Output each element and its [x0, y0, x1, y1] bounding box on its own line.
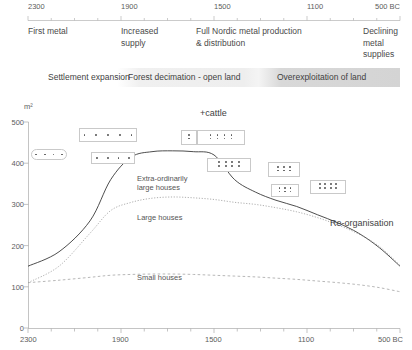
- house-dot-icon: [225, 161, 227, 163]
- house-dot-icon: [96, 157, 98, 159]
- house-dot-icon: [95, 134, 97, 136]
- house-dot-icon: [231, 134, 233, 136]
- house-dot-row: [319, 183, 337, 185]
- house-dot-icon: [128, 157, 130, 159]
- house-dot-icon: [225, 165, 227, 167]
- glyph-box-8: [271, 184, 299, 197]
- house-dot-icon: [279, 187, 281, 189]
- phase-label-overexploitation: Overexploitation of land: [277, 72, 366, 82]
- house-dot-icon: [238, 165, 240, 167]
- bronze-age-house-size-figure: 2300 1900 1500 1100 500 BC Fi: [0, 0, 412, 350]
- house-dot-icon: [107, 134, 109, 136]
- house-dot-icon: [84, 134, 86, 136]
- house-dot-icon: [335, 183, 337, 185]
- glyph-box-5: [197, 130, 245, 145]
- house-dot-icon: [279, 191, 281, 193]
- house-dot-icon: [283, 166, 285, 168]
- house-size-chart: m² 500 400 300 200 100 0 2300 1900 1500 …: [0, 100, 412, 350]
- house-dot-icon: [324, 183, 326, 185]
- house-dot-row: [279, 187, 292, 189]
- house-dot-icon: [224, 134, 226, 136]
- house-dot-icon: [330, 187, 332, 189]
- house-dot-icon: [218, 161, 220, 163]
- house-glyph-layer: [0, 100, 412, 350]
- house-dot-icon: [118, 157, 120, 159]
- house-dot-row: [277, 170, 291, 172]
- house-dot-icon: [324, 187, 326, 189]
- phase-label-settlement-expansion: Settlement expansion: [48, 72, 130, 82]
- house-dot-row: [218, 161, 239, 163]
- house-dot-icon: [35, 154, 37, 156]
- house-dot-icon: [61, 154, 63, 156]
- period-declining-metal-supplies: Declining metal supplies: [363, 26, 411, 61]
- house-dot-icon: [319, 183, 321, 185]
- house-dot-row: [96, 157, 130, 159]
- house-dot-icon: [231, 165, 233, 167]
- house-dot-icon: [188, 134, 190, 136]
- house-dot-icon: [284, 191, 286, 193]
- house-dot-row: [188, 134, 190, 136]
- period-increased-supply: Increased supply: [121, 26, 201, 49]
- house-dot-row: [319, 187, 337, 189]
- period-first-metal: First metal: [28, 26, 118, 38]
- house-dot-row: [35, 154, 63, 156]
- house-dot-icon: [238, 161, 240, 163]
- glyph-box-7: [268, 162, 300, 177]
- glyph-box-2: [79, 128, 137, 142]
- house-dot-icon: [217, 134, 219, 136]
- period-full-nordic-metal-production: Full Nordic metal production & distribut…: [196, 26, 366, 49]
- house-dot-row: [210, 134, 233, 136]
- house-dot-icon: [284, 187, 286, 189]
- house-dot-icon: [290, 187, 292, 189]
- house-dot-icon: [53, 154, 55, 156]
- glyph-box-9: [310, 180, 346, 194]
- glyph-box-3: [91, 152, 135, 164]
- house-dot-icon: [131, 134, 133, 136]
- house-dot-icon: [277, 166, 279, 168]
- house-dot-icon: [290, 191, 292, 193]
- house-dot-icon: [319, 187, 321, 189]
- house-dot-icon: [289, 170, 291, 172]
- house-dot-icon: [107, 157, 109, 159]
- glyph-box-6: [207, 158, 251, 172]
- house-dot-icon: [289, 166, 291, 168]
- house-dot-icon: [217, 138, 219, 140]
- house-dot-icon: [224, 138, 226, 140]
- glyph-box-1: [31, 149, 67, 160]
- house-dot-row: [188, 138, 190, 140]
- house-dot-icon: [44, 154, 46, 156]
- glyph-box-4: [181, 130, 197, 145]
- house-dot-row: [218, 165, 239, 167]
- house-dot-icon: [210, 138, 212, 140]
- top-axis-line: [0, 0, 412, 28]
- house-dot-row: [277, 166, 291, 168]
- phase-label-forest-decimation: Forest decimation - open land: [128, 72, 240, 82]
- house-dot-icon: [231, 161, 233, 163]
- house-dot-icon: [188, 138, 190, 140]
- house-dot-icon: [283, 170, 285, 172]
- house-dot-row: [210, 138, 233, 140]
- house-dot-icon: [335, 187, 337, 189]
- house-dot-icon: [231, 138, 233, 140]
- house-dot-row: [84, 134, 133, 136]
- house-dot-icon: [218, 165, 220, 167]
- period-label-row: First metal Increased supply Full Nordic…: [0, 26, 412, 66]
- house-dot-icon: [277, 170, 279, 172]
- house-dot-icon: [119, 134, 121, 136]
- house-dot-icon: [330, 183, 332, 185]
- house-dot-icon: [210, 134, 212, 136]
- house-dot-row: [279, 191, 292, 193]
